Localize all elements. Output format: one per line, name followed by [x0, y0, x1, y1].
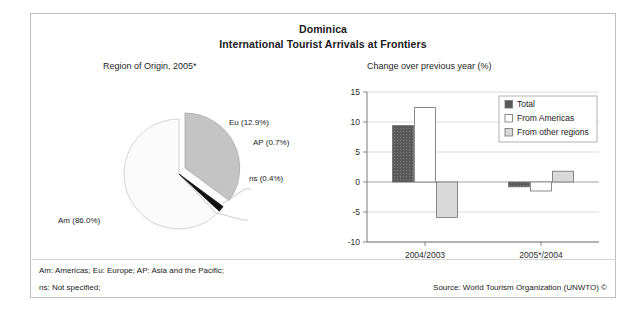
bar-total-2004-2003: [393, 126, 414, 182]
pie-leader-line-ns: [217, 213, 248, 220]
legend-label-from-other-regions: From other regions: [517, 127, 589, 137]
bar-total-2005-2004: [509, 182, 530, 187]
page-title: Dominica: [31, 23, 615, 35]
bar-chart-svg: 151050-5-102004/20032005*/2004TotalFrom …: [331, 74, 617, 274]
ytick-label-5: 5: [355, 147, 360, 157]
bar-from-other-regions-2005-2004: [553, 171, 574, 182]
ytick-label--10: -10: [348, 237, 361, 247]
legend-swatch-total: [505, 101, 513, 109]
legend-swatch-from-other-regions: [505, 129, 513, 137]
bar-from-americas-2004-2003: [415, 108, 436, 182]
figure-frame: Dominica International Tourist Arrivals …: [30, 13, 616, 298]
bar-chart-title: Change over previous year (%): [367, 61, 492, 71]
ytick-label-0: 0: [355, 177, 360, 187]
pie-label-ns: ns (0.4%): [249, 174, 283, 183]
ytick-label--5: -5: [352, 207, 360, 217]
source-credit: Source: World Tourism Organization (UNWT…: [433, 283, 607, 292]
ytick-label-10: 10: [351, 117, 361, 127]
pie-chart-title: Region of Origin, 2005*: [103, 61, 197, 71]
bar-from-americas-2005-2004: [531, 182, 552, 191]
page-subtitle: International Tourist Arrivals at Fronti…: [31, 38, 615, 50]
ytick-label-15: 15: [351, 87, 361, 97]
bar-from-other-regions-2004-2003: [437, 182, 458, 217]
footer-divider: [32, 259, 616, 260]
legend-label-from-americas: From Americas: [517, 113, 574, 123]
legend-swatch-from-americas: [505, 115, 513, 123]
pie-label-am: Am (86.0%): [58, 216, 100, 225]
legend-label-total: Total: [517, 99, 535, 109]
footnote-abbreviations: Am: Americas; Eu: Europe; AP: Asia and t…: [39, 266, 224, 275]
bar-plot-area: 151050-5-102004/20032005*/2004TotalFrom …: [348, 87, 599, 260]
pie-label-ap: AP (0.7%): [253, 138, 289, 147]
pie-chart: Eu (12.9%) AP (0.7%) ns (0.4%) Am (86.0%…: [31, 74, 331, 249]
pie-label-eu: Eu (12.9%): [229, 118, 269, 127]
bar-chart: 151050-5-102004/20032005*/2004TotalFrom …: [331, 74, 617, 274]
footnote-ns: ns: Not specified;: [39, 283, 100, 292]
